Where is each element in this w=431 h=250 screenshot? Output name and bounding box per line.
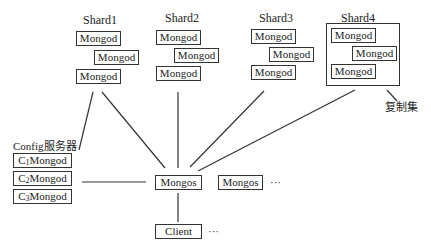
more-routers-ellipsis: ··· — [270, 176, 281, 188]
shard3-mongod-1[interactable]: Mongod — [251, 29, 296, 44]
config-server-3-name: Mongod — [30, 190, 67, 202]
shard4-mongod-2[interactable]: Mongod — [352, 46, 397, 61]
shard2-mongod-1[interactable]: Mongod — [156, 30, 201, 45]
shard3-label: Shard3 — [259, 12, 293, 24]
shard1-mongod-2[interactable]: Mongod — [94, 50, 139, 65]
client-node[interactable]: Client — [155, 224, 202, 239]
shard2-label: Shard2 — [165, 12, 199, 24]
shard1-label: Shard1 — [83, 14, 117, 26]
config-server-1-prefix: C — [18, 154, 25, 166]
config-server-2-name: Mongod — [30, 172, 67, 184]
config-server-2[interactable]: C2Mongod — [13, 171, 72, 186]
config-server-2-prefix: C — [18, 172, 25, 184]
shard2-mongod-3[interactable]: Mongod — [156, 66, 201, 81]
shard3-mongod-2[interactable]: Mongod — [269, 47, 314, 62]
config-server-3-prefix: C — [18, 190, 25, 202]
more-clients-ellipsis: ··· — [208, 225, 219, 237]
shard2-mongod-2[interactable]: Mongod — [174, 48, 219, 63]
config-server-1-name: Mongod — [30, 154, 67, 166]
mongos-router-2[interactable]: Mongos — [218, 175, 263, 190]
shard1-mongod-3[interactable]: Mongod — [76, 69, 121, 84]
shard4-mongod-1[interactable]: Mongod — [331, 28, 376, 43]
replica-set-label: 复制集 — [385, 102, 418, 114]
shard1-mongod-1[interactable]: Mongod — [76, 31, 121, 46]
config-servers-title: Config服务器 — [13, 140, 77, 152]
mongos-router-1[interactable]: Mongos — [155, 175, 202, 190]
shard4-mongod-3[interactable]: Mongod — [331, 64, 376, 79]
config-server-1[interactable]: C1Mongod — [13, 153, 72, 168]
shard3-mongod-3[interactable]: Mongod — [251, 65, 296, 80]
config-server-3[interactable]: C3Mongod — [13, 189, 72, 204]
